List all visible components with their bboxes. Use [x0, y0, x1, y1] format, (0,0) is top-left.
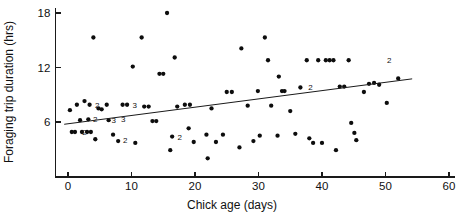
data-point — [277, 74, 281, 78]
data-point — [324, 58, 328, 62]
overlap-count-label: 2 — [308, 83, 313, 92]
data-point — [258, 133, 262, 137]
data-point — [89, 130, 93, 134]
data-point — [214, 140, 218, 144]
data-point — [154, 119, 158, 123]
x-tick-label-50: 50 — [379, 180, 392, 192]
data-point — [168, 148, 172, 152]
tick-labels-group: 010203040506061218 — [38, 7, 456, 192]
data-point — [150, 119, 154, 123]
data-point — [327, 58, 331, 62]
ticks-group — [55, 13, 449, 177]
data-point — [68, 108, 72, 112]
data-point — [125, 103, 129, 107]
scatter-chart-figure: 010203040506061218 2223323222 Chick age … — [0, 0, 464, 214]
data-point — [142, 104, 146, 108]
x-axis-title: Chick age (days) — [187, 198, 277, 212]
data-point — [131, 64, 135, 68]
data-point — [293, 132, 297, 136]
data-point — [263, 35, 267, 39]
x-tick-label-10: 10 — [125, 180, 138, 192]
overlap-count-label: 2 — [178, 133, 183, 142]
data-point — [204, 133, 208, 137]
data-point — [116, 139, 120, 143]
data-point — [316, 58, 320, 62]
data-point — [298, 85, 302, 89]
data-point — [251, 139, 255, 143]
data-point — [352, 131, 356, 135]
data-point — [239, 46, 243, 50]
x-tick-label-30: 30 — [252, 180, 265, 192]
data-point — [320, 141, 324, 145]
x-tick-label-0: 0 — [65, 180, 71, 192]
data-point — [157, 72, 161, 76]
data-point — [146, 104, 150, 108]
data-point — [100, 107, 104, 111]
data-point — [305, 58, 309, 62]
x-tick-label-20: 20 — [189, 180, 202, 192]
data-point — [237, 145, 241, 149]
overlap-count-label: 2 — [95, 101, 100, 110]
data-point — [111, 133, 115, 137]
data-point — [161, 72, 165, 76]
y-axis-title: Foraging trip duration (hrs) — [2, 21, 16, 163]
data-point — [282, 89, 286, 93]
data-point — [75, 103, 79, 107]
regression-line-group — [64, 79, 412, 124]
data-point — [266, 58, 270, 62]
data-point — [396, 76, 400, 80]
y-tick-label-18: 18 — [38, 7, 51, 19]
overlap-count-label: 2 — [123, 136, 128, 145]
overlap-count-label: 2 — [387, 56, 392, 65]
data-point — [230, 90, 234, 94]
data-point — [82, 99, 86, 103]
data-point — [188, 103, 192, 107]
overlap-count-label: 3 — [132, 101, 137, 110]
data-point — [120, 103, 124, 107]
data-point — [183, 103, 187, 107]
data-point — [362, 90, 366, 94]
data-point — [140, 35, 144, 39]
data-point — [133, 141, 137, 145]
data-point — [165, 11, 169, 15]
data-point — [311, 141, 315, 145]
data-point — [354, 138, 358, 142]
data-point — [256, 89, 260, 93]
data-point — [275, 133, 279, 137]
data-point — [173, 55, 177, 59]
chart-svg: 010203040506061218 2223323222 Chick age … — [0, 0, 464, 214]
data-point — [269, 104, 273, 108]
data-point — [349, 121, 353, 125]
regression-line — [64, 79, 412, 124]
data-point — [170, 134, 174, 138]
data-point — [288, 109, 292, 113]
overlap-count-label: 2 — [82, 128, 87, 137]
data-point — [73, 130, 77, 134]
data-point — [91, 35, 95, 39]
data-point — [187, 126, 191, 130]
axes-group — [55, 8, 455, 177]
x-tick-label-60: 60 — [443, 180, 456, 192]
x-tick-label-40: 40 — [316, 180, 329, 192]
data-point — [347, 58, 351, 62]
y-tick-label-6: 6 — [44, 116, 50, 128]
data-point — [206, 156, 210, 160]
data-point — [192, 140, 196, 144]
data-point — [307, 136, 311, 140]
y-tick-label-12: 12 — [38, 62, 51, 74]
data-point — [209, 106, 213, 110]
data-point — [334, 148, 338, 152]
data-point — [175, 104, 179, 108]
data-point — [87, 103, 91, 107]
data-point — [331, 58, 335, 62]
overlap-count-labels-group: 2223323222 — [82, 56, 392, 145]
data-point — [93, 137, 97, 141]
data-point — [246, 104, 250, 108]
data-point — [221, 133, 225, 137]
data-points-group — [68, 11, 401, 161]
data-point — [105, 103, 109, 107]
data-point — [225, 90, 229, 94]
data-point — [385, 101, 389, 105]
